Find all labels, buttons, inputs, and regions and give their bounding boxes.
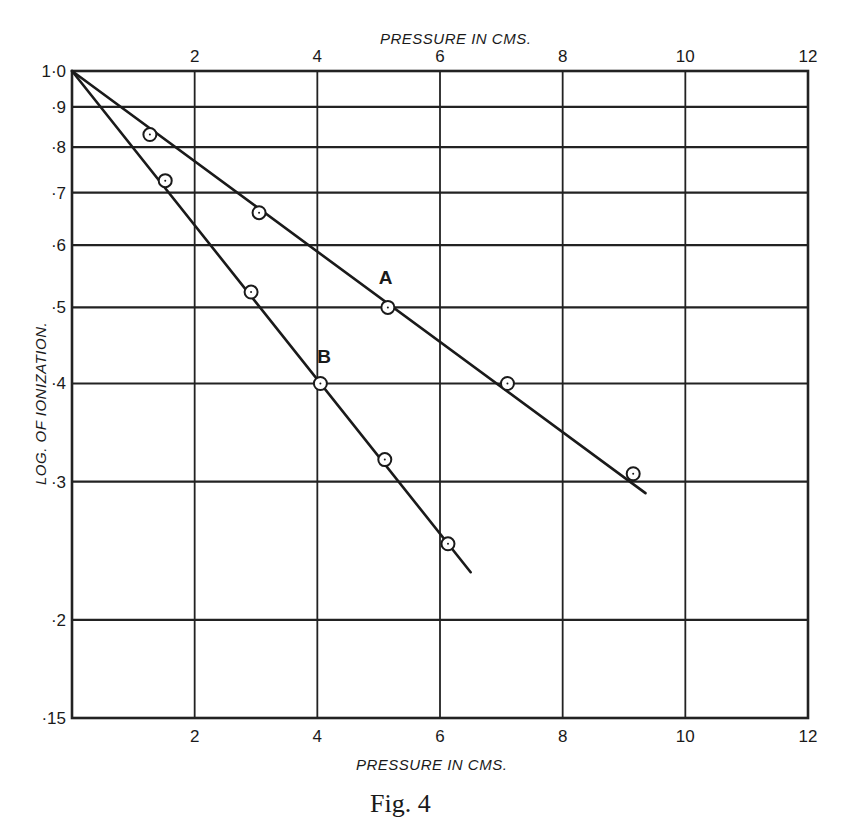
y-tick-label: ·7 [51,184,66,203]
data-point-dot [632,473,634,475]
data-point-dot [506,382,508,384]
x-tick-label-bottom: 12 [799,727,818,746]
chart-svg: 1·0·9·8·7·6·5·4·3·2·15 24681012 24681012… [0,0,847,827]
y-tick-label: ·8 [51,138,66,157]
x-tick-label-top: 12 [799,47,818,66]
series-label: A [379,267,393,288]
data-point-dot [250,291,252,293]
chart: 1·0·9·8·7·6·5·4·3·2·15 24681012 24681012… [0,0,847,827]
x-tick-label-bottom: 8 [558,727,567,746]
x-tick-label-top: 2 [190,47,199,66]
y-tick-label: ·6 [51,236,66,255]
y-tick-label: ·15 [41,709,66,728]
x-tick-label-bottom: 2 [190,727,199,746]
y-tick-label: ·5 [51,298,66,317]
data-point-dot [387,306,389,308]
y-tick-label: 1·0 [41,62,66,81]
x-axis-ticks-top: 24681012 [190,47,818,66]
y-axis-title: LOG. OF IONIZATION. [32,322,49,485]
y-tick-label: ·3 [51,473,66,492]
data-point-dot [164,180,166,182]
x-tick-label-top: 6 [435,47,444,66]
y-tick-label: ·4 [51,374,66,393]
x-tick-label-top: 10 [676,47,695,66]
x-axis-ticks-bottom: 24681012 [190,727,818,746]
x-tick-label-bottom: 6 [435,727,444,746]
data-point-dot [319,382,321,384]
x-axis-title-bottom: PRESSURE IN CMS. [356,756,507,773]
gridlines [72,71,808,718]
x-tick-label-top: 4 [313,47,322,66]
x-tick-label-bottom: 4 [313,727,322,746]
data-point-dot [258,212,260,214]
data-point-dot [447,543,449,545]
y-tick-label: ·9 [51,98,66,117]
data-point-dot [384,459,386,461]
y-tick-label: ·2 [51,611,66,630]
x-tick-label-bottom: 10 [676,727,695,746]
series-label: B [317,346,331,367]
x-tick-label-top: 8 [558,47,567,66]
figure-caption: Fig. 4 [370,789,431,818]
x-axis-title-top: PRESSURE IN CMS. [380,30,531,47]
data-point-dot [149,134,151,136]
